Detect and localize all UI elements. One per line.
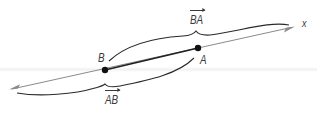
point-b-label: B [98,52,105,64]
vector-ab-label: AB [105,94,118,106]
axis-label: x [302,18,307,29]
point-b-icon [102,67,108,73]
diagram-canvas [0,0,317,116]
point-a-label: A [200,54,207,66]
vector-ba-text: BA [190,13,203,27]
axis-line [9,27,295,90]
vector-diagram: B A x BA AB [0,0,317,116]
vector-arrow-icon [105,90,120,91]
vector-ba-label: BA [190,14,203,26]
brace-ba [109,24,289,61]
vector-arrow-icon [190,10,205,11]
point-a-icon [195,45,201,51]
left-arrowhead-icon [9,84,20,89]
right-arrowhead-icon [284,27,295,33]
vector-ab-text: AB [105,93,118,107]
segment-ab [105,48,198,70]
